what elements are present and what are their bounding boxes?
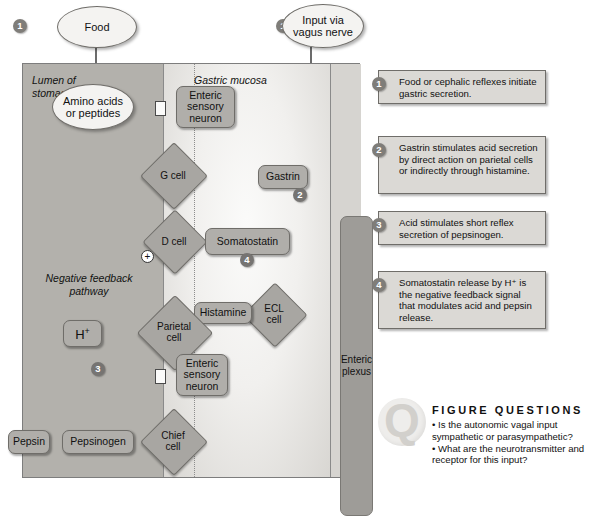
node-histamine: Histamine <box>194 302 252 324</box>
label-feedback-line1: Negative feedback <box>46 272 133 285</box>
histamine-label: Histamine <box>200 307 247 319</box>
region-enteric-plexus: Enteric plexus <box>340 216 373 516</box>
node-enteric-sensory-neuron-lower: Enteric sensory neuron <box>176 354 228 396</box>
step-callout-1-text: Food or cephalic reflexes initiate gastr… <box>399 76 539 99</box>
somatostatin-label: Somatostatin <box>217 236 278 248</box>
mucosa-boundary-line <box>163 64 164 477</box>
parietal-cell-line2: cell <box>166 332 181 343</box>
parietal-cell-line1: Parietal <box>157 321 191 332</box>
step-callout-1: 1 Food or cephalic reflexes initiate gas… <box>378 70 546 104</box>
node-amino-acids-line2: or peptides <box>66 107 120 120</box>
question-mark-icon: Q <box>378 398 426 446</box>
step-badge-acid: 3 <box>91 362 105 376</box>
chief-cell-line2: cell <box>165 441 180 452</box>
node-chief-cell: Chief cell <box>150 418 196 464</box>
label-lumen-line1: Lumen of <box>32 74 76 87</box>
d-cell-label: D cell <box>152 219 196 263</box>
pepsinogen-label: Pepsinogen <box>70 436 125 448</box>
esn-lower-line3: neuron <box>186 381 219 393</box>
parietal-cell-label: Parietal cell <box>148 306 200 358</box>
step-callout-4-text: Somatostatin release by H⁺ is the negati… <box>399 277 539 323</box>
hydrogen-ion-charge: + <box>85 326 90 336</box>
step-callout-2-badge: 2 <box>372 143 386 157</box>
plus-sign-icon: + <box>141 250 154 263</box>
node-vagus-label-line2: vagus nerve <box>293 26 353 39</box>
label-gastric-mucosa: Gastric mucosa <box>194 74 267 87</box>
step-badge-food: 1 <box>13 19 27 33</box>
node-gastrin: Gastrin <box>258 165 308 189</box>
node-amino-acids-line1: Amino acids <box>63 95 123 108</box>
g-cell-label: G cell <box>150 152 196 198</box>
node-pepsin: Pepsin <box>8 430 50 454</box>
chief-cell-label: Chief cell <box>150 418 196 464</box>
step-callout-3-text: Acid stimulates short reflex secretion o… <box>399 217 539 240</box>
step-callout-2: 2 Gastrin stimulates acid secretion by d… <box>378 136 546 194</box>
node-ecl-cell: ECL cell <box>252 292 296 336</box>
figure-questions-block: FIGURE QUESTIONS • Is the autonomic vaga… <box>432 404 606 500</box>
esn-upper-line3: neuron <box>189 113 222 125</box>
ecl-cell-label: ECL cell <box>252 292 296 336</box>
node-pepsinogen: Pepsinogen <box>62 430 134 454</box>
node-hydrogen-ion: H+ <box>63 320 102 347</box>
label-feedback-line2: pathway <box>69 285 108 298</box>
ecl-cell-line1: ECL <box>264 303 283 314</box>
node-food-label: Food <box>84 21 109 34</box>
node-g-cell: G cell <box>150 152 196 198</box>
step-callout-3-badge: 3 <box>372 218 386 232</box>
step-callout-1-badge: 1 <box>372 77 386 91</box>
hydrogen-ion-symbol: H <box>75 327 84 342</box>
node-d-cell: D cell <box>152 219 196 263</box>
figure-question-2: • What are the neurotransmitter and rece… <box>432 443 606 467</box>
step-callout-3: 3 Acid stimulates short reflex secretion… <box>378 211 546 245</box>
receptor-icon-lower <box>155 369 166 384</box>
figure-question-1: • Is the autonomic vagal input sympathet… <box>432 419 606 443</box>
label-enteric-plexus-line2: plexus <box>342 366 371 378</box>
label-negative-feedback-pathway: Negative feedback pathway <box>37 272 141 297</box>
figure-questions-heading: FIGURE QUESTIONS <box>432 404 606 416</box>
submucosa-boundary-line <box>330 64 331 477</box>
node-somatostatin: Somatostatin <box>205 228 290 255</box>
step-badge-gastrin: 2 <box>293 188 307 202</box>
question-mark-glyph: Q <box>384 394 420 446</box>
node-amino-acids-or-peptides: Amino acids or peptides <box>52 84 134 130</box>
node-vagus-label-line1: Input via <box>302 14 344 27</box>
step-callout-4-badge: 4 <box>372 278 386 292</box>
node-food: Food <box>57 6 137 48</box>
node-parietal-cell: Parietal cell <box>148 306 200 358</box>
node-enteric-sensory-neuron-upper: Enteric sensory neuron <box>176 86 235 128</box>
label-enteric-plexus-line1: Enteric <box>341 354 372 366</box>
hydrogen-ion-label: H+ <box>75 326 90 341</box>
step-callout-4: 4 Somatostatin release by H⁺ is the nega… <box>378 271 546 329</box>
step-badge-somatostatin: 4 <box>240 253 254 267</box>
chief-cell-line1: Chief <box>161 430 184 441</box>
step-callout-2-text: Gastrin stimulates acid secretion by dir… <box>399 142 539 177</box>
receptor-icon-upper <box>155 101 166 116</box>
gastrin-label: Gastrin <box>266 171 300 183</box>
ecl-cell-line2: cell <box>266 314 281 325</box>
pepsin-label: Pepsin <box>13 436 45 448</box>
node-vagus-input: Input via vagus nerve <box>282 4 364 48</box>
